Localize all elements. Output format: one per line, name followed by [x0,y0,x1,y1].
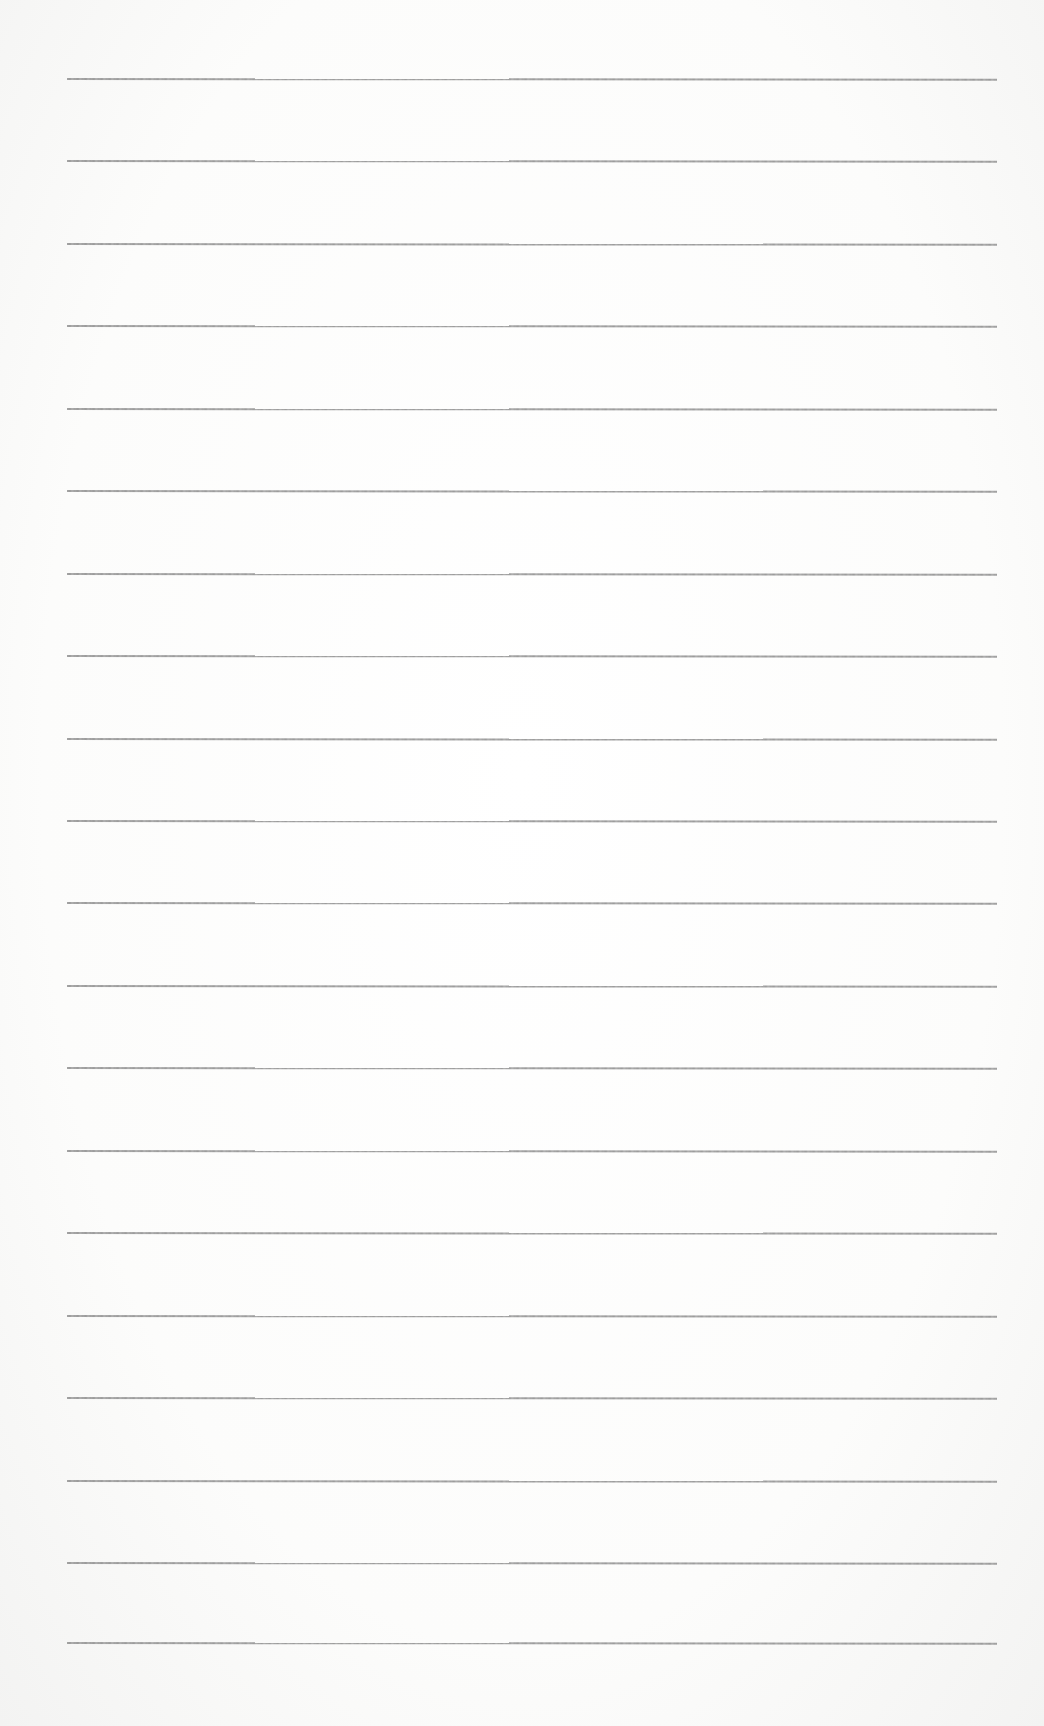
ruled-line [67,78,997,81]
ruled-line [67,490,997,493]
ruled-line [67,1315,997,1318]
ruled-line [67,985,997,988]
ruled-line [67,243,997,246]
ruled-line [67,1397,997,1400]
ruled-line [67,902,997,905]
ruled-line [67,573,997,576]
ruled-line [67,325,997,328]
ruled-line [67,1642,997,1645]
ruled-line [67,1562,997,1565]
ruled-paper-sheet [0,0,1044,1726]
ruled-line [67,160,997,163]
ruled-line [67,738,997,741]
ruled-line [67,1150,997,1153]
ruled-line [67,655,997,658]
ruled-line [67,1067,997,1070]
ruled-line [67,1480,997,1483]
ruled-line [67,408,997,411]
ruled-line [67,820,997,823]
ruled-line [67,1232,997,1235]
